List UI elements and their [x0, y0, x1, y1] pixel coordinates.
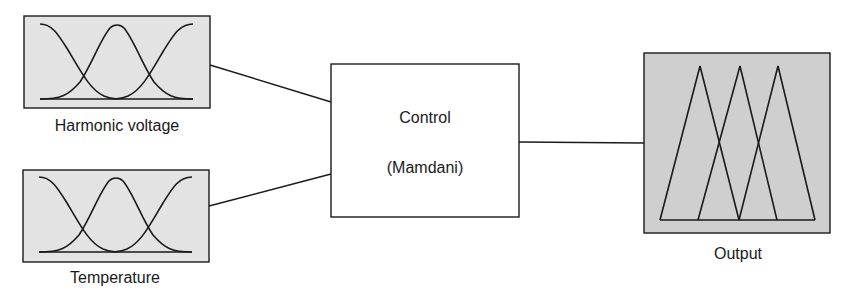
mf-box [24, 16, 210, 108]
controller-method: (Mamdani) [387, 159, 463, 176]
output-node: Output [644, 53, 830, 262]
input-label-harmonic-voltage: Harmonic voltage [55, 117, 180, 134]
input-node-temperature: Temperature [23, 170, 209, 286]
input-label-temperature: Temperature [70, 269, 160, 286]
edge-temperature-to-control [209, 174, 331, 206]
input-node-harmonic-voltage: Harmonic voltage [24, 16, 210, 134]
fuzzy-system-diagram: Harmonic voltage Temperature Control (Ma… [0, 0, 850, 298]
controller-box [331, 64, 519, 217]
controller-node: Control (Mamdani) [331, 64, 519, 217]
edge-harmonic-to-control [210, 65, 331, 102]
output-label: Output [714, 245, 763, 262]
mf-box [23, 170, 209, 262]
edge-control-to-output [519, 142, 644, 143]
controller-title: Control [399, 109, 451, 126]
